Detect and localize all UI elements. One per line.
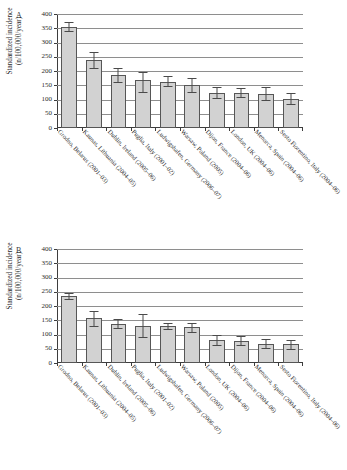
bar bbox=[111, 324, 127, 363]
error-bar-cap bbox=[262, 100, 271, 101]
error-bar-cap bbox=[114, 319, 123, 320]
y-axis-title-a: Standardized incidence (n/100,000/year) bbox=[6, 0, 24, 102]
error-bar-cap bbox=[237, 88, 246, 89]
bar-group bbox=[205, 14, 230, 128]
x-tick-label: Grodno, Belarus (2001–03) bbox=[57, 128, 110, 184]
error-bar-cap bbox=[188, 92, 197, 93]
x-tick-label: Menorca, Spain (2004–06) bbox=[254, 363, 306, 418]
error-bar-cap bbox=[262, 348, 271, 349]
x-tick-label: Dijon, France (2004–06) bbox=[229, 363, 277, 414]
error-bar bbox=[192, 78, 193, 91]
y-axis-title-line1-a: Standardized incidence bbox=[6, 8, 14, 75]
x-tick-label: Puglia, Italy (2001–02) bbox=[131, 128, 177, 176]
error-bar bbox=[290, 340, 291, 349]
y-tick-label: 400 bbox=[42, 246, 53, 253]
bar-series-a bbox=[57, 14, 303, 128]
error-bar bbox=[241, 336, 242, 345]
x-tick-label: Menorca, Spain (2004–06) bbox=[254, 128, 306, 183]
error-bar bbox=[266, 339, 267, 347]
bar-group bbox=[131, 14, 156, 128]
error-bar bbox=[266, 87, 267, 100]
y-tick-label: 400 bbox=[42, 11, 53, 18]
y-tick-label: 0 bbox=[49, 125, 53, 132]
plot-area-b: 050100150200250300350400 bbox=[57, 249, 303, 363]
error-bar-cap bbox=[163, 76, 172, 77]
error-bar bbox=[69, 22, 70, 31]
error-bar-cap bbox=[262, 87, 271, 88]
error-bar bbox=[241, 88, 242, 97]
error-bar-cap bbox=[139, 314, 148, 315]
x-tick-label: Dublin, Ireland (2005–06) bbox=[106, 363, 157, 417]
error-bar bbox=[167, 76, 168, 86]
y-tick-label: 200 bbox=[42, 68, 53, 75]
error-bar-cap bbox=[114, 328, 123, 329]
error-bar bbox=[143, 314, 144, 337]
bar-group bbox=[57, 249, 82, 363]
error-bar-cap bbox=[163, 86, 172, 87]
bar-group bbox=[229, 14, 254, 128]
error-bar-cap bbox=[188, 332, 197, 333]
error-bar-cap bbox=[89, 311, 98, 312]
y-tick-label: 100 bbox=[42, 96, 53, 103]
bar bbox=[61, 296, 77, 363]
y-tick-label: 100 bbox=[42, 331, 53, 338]
y-tick-label: 300 bbox=[42, 39, 53, 46]
bar-group bbox=[229, 249, 254, 363]
error-bar-cap bbox=[237, 336, 246, 337]
bar-group bbox=[57, 14, 82, 128]
bar-group bbox=[180, 14, 205, 128]
bar bbox=[160, 326, 176, 363]
bar bbox=[86, 60, 102, 128]
bar bbox=[61, 27, 77, 128]
x-tick-label: London, UK (2004–06) bbox=[205, 363, 251, 412]
y-tick-label: 350 bbox=[42, 25, 53, 32]
error-bar-cap bbox=[89, 68, 98, 69]
y-axis-title-line2-a: (n/100,000/year) bbox=[15, 0, 24, 102]
bar-group bbox=[155, 14, 180, 128]
chart-panel-b: B Standardized incidence (n/100,000/year… bbox=[0, 235, 347, 470]
bar-group bbox=[131, 249, 156, 363]
error-bar-cap bbox=[89, 52, 98, 53]
error-bar-cap bbox=[65, 299, 74, 300]
error-bar-cap bbox=[286, 104, 295, 105]
x-tick-label: Dublin, Ireland (2005–06) bbox=[106, 128, 157, 182]
error-bar-cap bbox=[237, 345, 246, 346]
error-bar bbox=[290, 93, 291, 104]
y-tick-label: 250 bbox=[42, 53, 53, 60]
y-tick-label: 300 bbox=[42, 274, 53, 281]
error-bar bbox=[118, 68, 119, 83]
error-bar-cap bbox=[212, 98, 221, 99]
y-axis-title-line2-b: (n/100,000/year) bbox=[15, 215, 24, 337]
error-bar-cap bbox=[139, 337, 148, 338]
error-bar-cap bbox=[114, 68, 123, 69]
y-tick-label: 0 bbox=[49, 360, 53, 367]
error-bar-cap bbox=[139, 92, 148, 93]
error-bar-cap bbox=[114, 82, 123, 83]
y-axis-title-line1-b: Standardized incidence bbox=[6, 243, 14, 310]
bar-group bbox=[254, 249, 279, 363]
y-tick-label: 350 bbox=[42, 260, 53, 267]
error-bar-cap bbox=[212, 87, 221, 88]
bar-group bbox=[82, 14, 107, 128]
error-bar bbox=[118, 319, 119, 328]
error-bar-cap bbox=[139, 72, 148, 73]
error-bar bbox=[93, 52, 94, 67]
y-tick-label: 150 bbox=[42, 82, 53, 89]
error-bar bbox=[216, 335, 217, 345]
bar-group bbox=[82, 249, 107, 363]
x-tick-label: Warsaw, Poland (2005) bbox=[180, 128, 226, 176]
chart-panel-a: A Standardized incidence (n/100,000/year… bbox=[0, 0, 347, 235]
error-bar-cap bbox=[237, 97, 246, 98]
error-bar-cap bbox=[65, 22, 74, 23]
bar-group bbox=[106, 249, 131, 363]
y-tick-label: 250 bbox=[42, 288, 53, 295]
x-axis-labels-b: Grodno, Belarus (2001–03)Kaunas, Lithuan… bbox=[57, 363, 347, 463]
error-bar-cap bbox=[163, 329, 172, 330]
x-tick-label: Dijon, France (2004–06) bbox=[205, 128, 253, 179]
y-tick-label: 200 bbox=[42, 303, 53, 310]
bar-group bbox=[180, 249, 205, 363]
error-bar-cap bbox=[163, 323, 172, 324]
error-bar-cap bbox=[212, 345, 221, 346]
error-bar-cap bbox=[286, 340, 295, 341]
y-tick-label: 50 bbox=[45, 345, 52, 352]
